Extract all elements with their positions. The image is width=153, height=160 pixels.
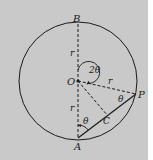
- label-angle-theta-a: θ: [83, 116, 89, 126]
- label-r-bottom: r: [70, 103, 75, 113]
- label-o: O: [67, 76, 75, 87]
- radius-op: [78, 81, 136, 94]
- label-c: C: [103, 116, 110, 126]
- label-r-op: r: [108, 76, 113, 86]
- label-b: B: [72, 13, 80, 24]
- label-angle-theta-p: θ: [118, 94, 124, 104]
- label-p: P: [137, 89, 145, 100]
- label-angle-2theta: 2θ: [88, 65, 101, 75]
- label-a: A: [73, 141, 81, 152]
- circle-diagram: B O P C A r r r 2θ θ θ: [0, 0, 153, 160]
- label-r-top: r: [70, 48, 75, 58]
- center-dot: [76, 79, 79, 82]
